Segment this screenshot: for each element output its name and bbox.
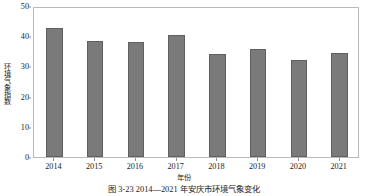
- plot-area: [33, 7, 359, 158]
- bar: [331, 53, 347, 157]
- x-tick-label: 2014: [45, 162, 61, 171]
- bar: [128, 42, 144, 157]
- x-tick-label: 2016: [127, 162, 143, 171]
- bar: [291, 60, 307, 157]
- figure-caption: 图 3-23 2014—2021 年安庆市环境气象变化: [0, 185, 368, 195]
- x-tick-mark: [94, 158, 95, 161]
- y-tick-mark: [29, 37, 32, 38]
- x-tick-mark: [53, 158, 54, 161]
- bar: [46, 28, 62, 157]
- x-tick-mark: [176, 158, 177, 161]
- x-tick-label: 2021: [330, 162, 346, 171]
- bar-series: [34, 8, 358, 157]
- x-tick-label: 2019: [249, 162, 265, 171]
- bar: [250, 49, 266, 157]
- y-tick-mark: [29, 158, 32, 159]
- y-axis-ticks: 01020304050: [13, 0, 31, 196]
- y-axis-title: 环境气象指数: [0, 44, 14, 124]
- x-axis-title: 年份: [0, 174, 368, 182]
- x-tick-label: 2018: [208, 162, 224, 171]
- x-tick-label: 2017: [167, 162, 183, 171]
- x-tick-label: 2015: [86, 162, 102, 171]
- x-tick-mark: [135, 158, 136, 161]
- x-tick-label: 2020: [290, 162, 306, 171]
- y-tick-mark: [29, 7, 32, 8]
- x-tick-mark: [298, 158, 299, 161]
- bar: [87, 41, 103, 157]
- y-tick-mark: [29, 97, 32, 98]
- bar: [168, 35, 184, 157]
- figure-container: 环境气象指数 01020304050 201420152016201720182…: [0, 0, 368, 196]
- y-tick-mark: [29, 127, 32, 128]
- x-tick-mark: [216, 158, 217, 161]
- y-tick-mark: [29, 67, 32, 68]
- bar: [209, 54, 225, 157]
- x-tick-mark: [257, 158, 258, 161]
- x-tick-mark: [339, 158, 340, 161]
